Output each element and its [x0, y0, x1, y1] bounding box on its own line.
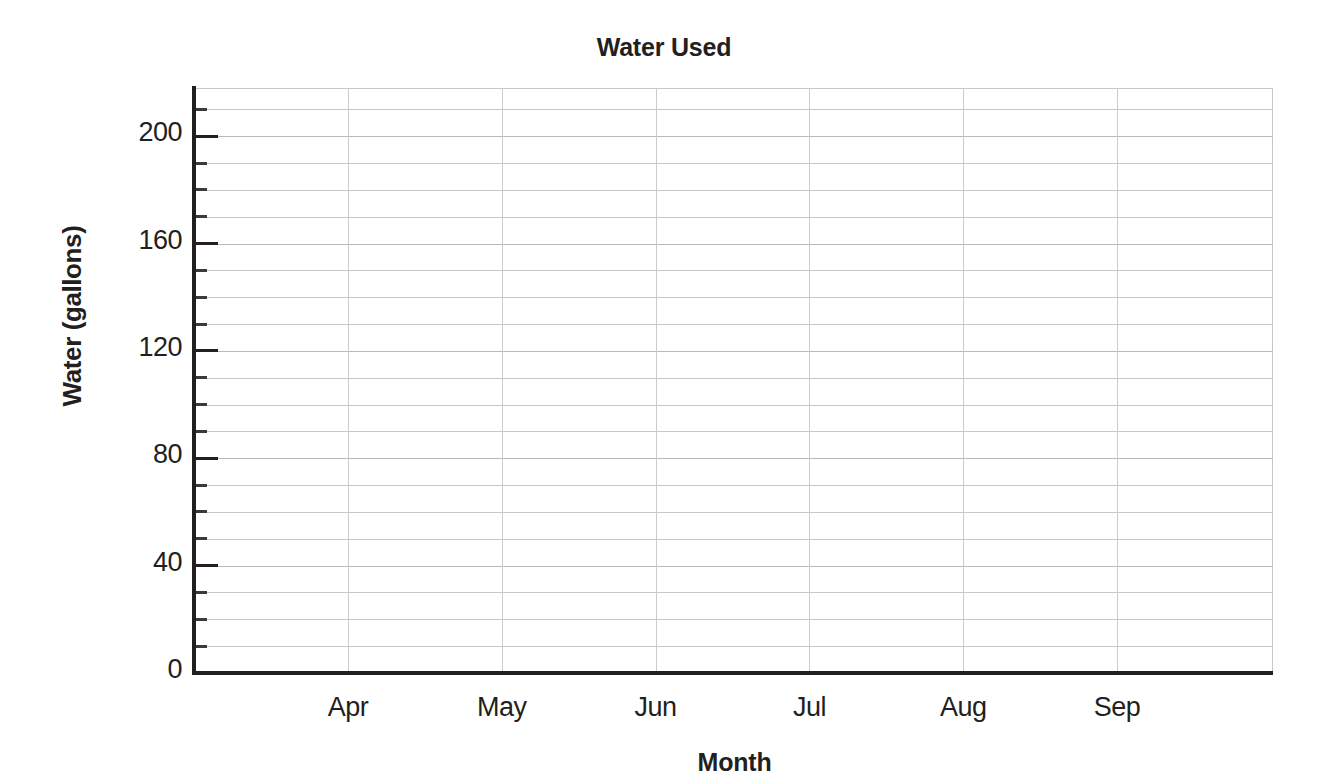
gridline-vertical — [809, 88, 810, 673]
gridline-horizontal-minor — [196, 163, 1273, 164]
y-axis-tick-label: 120 — [138, 332, 182, 363]
x-axis-title: Month — [196, 748, 1273, 777]
gridline-horizontal-minor — [196, 190, 1273, 191]
y-axis-tick-minor — [196, 323, 207, 326]
gridline-horizontal-minor — [196, 324, 1273, 325]
gridline-vertical — [963, 88, 964, 673]
gridline-horizontal-minor — [196, 646, 1273, 647]
gridline-vertical — [348, 88, 349, 673]
gridline-horizontal-major — [196, 566, 1273, 567]
y-axis-tick-major — [196, 242, 218, 245]
y-axis-tick-major — [196, 457, 218, 460]
x-axis-tick-label: Jun — [576, 692, 736, 723]
y-axis-tick-minor — [196, 269, 207, 272]
y-axis-tick-minor — [196, 537, 207, 540]
gridline-horizontal-minor — [196, 485, 1273, 486]
plot-border-right — [1272, 88, 1273, 673]
x-axis-line — [192, 671, 1273, 675]
y-axis-tick-minor — [196, 403, 207, 406]
y-axis-tick-minor — [196, 296, 207, 299]
gridline-horizontal-minor — [196, 405, 1273, 406]
gridline-horizontal-major — [196, 244, 1273, 245]
y-axis-tick-minor — [196, 215, 207, 218]
x-axis-tick-label: Sep — [1037, 692, 1197, 723]
plot-area — [196, 88, 1273, 673]
y-axis-tick-minor — [196, 188, 207, 191]
gridline-vertical — [1117, 88, 1118, 673]
y-axis-tick-minor — [196, 591, 207, 594]
gridline-horizontal-minor — [196, 539, 1273, 540]
y-axis-tick-label: 160 — [138, 225, 182, 256]
gridline-horizontal-minor — [196, 217, 1273, 218]
y-axis-tick-minor — [196, 510, 207, 513]
gridline-horizontal-minor — [196, 109, 1273, 110]
gridline-horizontal-major — [196, 458, 1273, 459]
gridline-horizontal-minor — [196, 297, 1273, 298]
gridline-horizontal-minor — [196, 592, 1273, 593]
x-axis-tick-label: Jul — [729, 692, 889, 723]
y-axis-line — [192, 86, 196, 675]
gridline-horizontal-major — [196, 136, 1273, 137]
y-axis-tick-major — [196, 349, 218, 352]
gridline-vertical — [502, 88, 503, 673]
y-axis-title: Water (gallons) — [48, 24, 96, 609]
chart-title: Water Used — [0, 33, 1328, 62]
x-axis-tick-label: Aug — [883, 692, 1043, 723]
y-axis-tick-label: 40 — [153, 547, 182, 578]
y-axis-tick-label: 0 — [167, 654, 182, 685]
y-axis-tick-minor — [196, 430, 207, 433]
gridline-horizontal-minor — [196, 619, 1273, 620]
y-axis-tick-minor — [196, 376, 207, 379]
y-axis-tick-minor — [196, 645, 207, 648]
gridline-vertical — [656, 88, 657, 673]
y-axis-tick-minor — [196, 162, 207, 165]
plot-border-top — [196, 88, 1273, 89]
gridline-horizontal-minor — [196, 270, 1273, 271]
gridline-horizontal-minor — [196, 431, 1273, 432]
y-axis-tick-major — [196, 672, 218, 675]
gridline-horizontal-minor — [196, 512, 1273, 513]
y-axis-tick-label: 200 — [138, 117, 182, 148]
x-axis-tick-label: Apr — [268, 692, 428, 723]
x-axis-tick-label: May — [422, 692, 582, 723]
y-axis-tick-minor — [196, 108, 207, 111]
y-axis-tick-minor — [196, 618, 207, 621]
y-axis-tick-minor — [196, 484, 207, 487]
y-axis-tick-label: 80 — [153, 439, 182, 470]
y-axis-tick-major — [196, 135, 218, 138]
y-axis-tick-major — [196, 564, 218, 567]
gridline-horizontal-minor — [196, 378, 1273, 379]
gridline-horizontal-major — [196, 351, 1273, 352]
